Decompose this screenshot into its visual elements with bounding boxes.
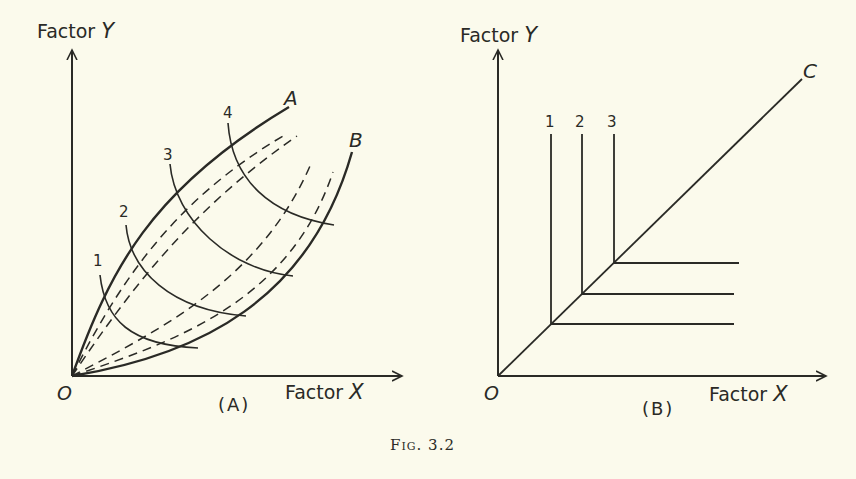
axis-variable: X (773, 382, 787, 406)
axis-variable: Y (101, 19, 114, 43)
isoquant-1 (551, 134, 734, 324)
axis-label-text: Factor (37, 20, 95, 42)
isoquant-2 (126, 225, 246, 316)
panel-a-label: (A) (218, 394, 250, 415)
axis-variable: X (349, 380, 363, 404)
caption-number: 3.2 (428, 436, 455, 454)
panel-b-x-axis-label: Factor X (709, 382, 788, 406)
axis-variable: Y (524, 23, 537, 47)
axis-label-text: Factor (460, 24, 518, 46)
boundary-curve-a (72, 107, 289, 376)
boundary-curve-b (72, 152, 352, 376)
panel-b-label: (B) (642, 398, 674, 419)
dashed-curve (72, 136, 297, 376)
panel-a-y-axis-label: Factor Y (37, 19, 114, 43)
panel-a-origin-label: O (57, 382, 72, 404)
isoquant-label-4: 4 (223, 104, 233, 122)
dashed-expansion-paths (72, 136, 333, 376)
ray-c (498, 79, 802, 376)
isoquant-label-2: 2 (119, 203, 129, 221)
isoquant-label-3: 3 (607, 113, 617, 131)
panel-b-graphics (498, 50, 826, 376)
curve-label-a: A (284, 86, 298, 110)
panel-b-y-axis-label: Factor Y (460, 23, 537, 47)
ray-label-c: C (803, 59, 817, 83)
isoquant-4 (228, 123, 334, 225)
curve-label-b: B (349, 128, 363, 152)
figure-caption: Fig. 3.2 (390, 436, 455, 454)
isoquant-label-1: 1 (545, 113, 555, 131)
isoquant-2 (582, 134, 734, 294)
isoquant-label-3: 3 (163, 146, 173, 164)
panel-a-x-axis-label: Factor X (285, 380, 364, 404)
isoquant-label-2: 2 (575, 113, 585, 131)
axis-label-text: Factor (285, 381, 343, 403)
isoquant-label-1: 1 (93, 252, 103, 270)
figure-graphics (0, 0, 856, 479)
dashed-curve (72, 166, 310, 376)
dashed-curve (72, 172, 333, 376)
caption-prefix: Fig. (390, 436, 422, 454)
axis-label-text: Factor (709, 383, 767, 405)
panel-b-origin-label: O (484, 382, 499, 404)
